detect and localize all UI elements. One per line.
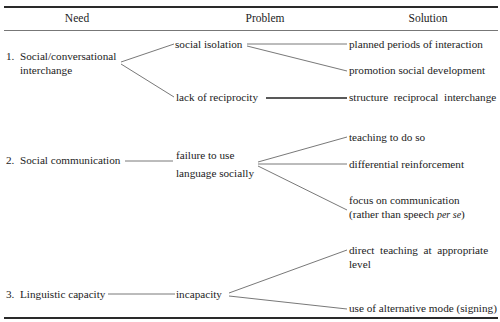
row-3-need: Linguistic capacity (20, 288, 105, 301)
row-2-problem-line1: failure to use (176, 149, 234, 162)
row-3-solution-1-line2: level (349, 258, 371, 271)
row-1-solution-2: promotion social development (349, 64, 485, 77)
row-1-solution-1: planned periods of interaction (349, 38, 483, 51)
row-2-solution-3: focus on communication (349, 194, 460, 207)
solution-text-suffix: ) (461, 208, 465, 220)
row-1-solution-3: structure reciprocal interchange (349, 91, 496, 104)
solution-text-italic: per se (437, 209, 461, 220)
row-1-problem-1: social isolation (175, 38, 242, 51)
row-1-need: Social/conversational (20, 50, 116, 63)
row-3-problem: incapacity (176, 288, 222, 301)
solution-text: (rather than speech (349, 208, 437, 220)
row-1-number: 1. (6, 50, 14, 63)
row-3-solution-1: direct teaching at appropriate (349, 244, 488, 257)
row-2-need: Social communication (20, 154, 120, 167)
row-1-need-line2: interchange (20, 64, 72, 77)
row-2-solution-1: teaching to do so (349, 131, 425, 144)
row-2-solution-3-line2: (rather than speech per se) (349, 208, 465, 221)
row-3-solution-2: use of alternative mode (signing) (349, 302, 497, 315)
row-2-number: 2. (6, 154, 14, 167)
row-2-problem-line2: language socially (176, 167, 254, 180)
row-2-solution-2: differential reinforcement (349, 158, 464, 171)
row-1-problem-2: lack of reciprocity (176, 91, 258, 104)
row-3-number: 3. (6, 288, 14, 301)
